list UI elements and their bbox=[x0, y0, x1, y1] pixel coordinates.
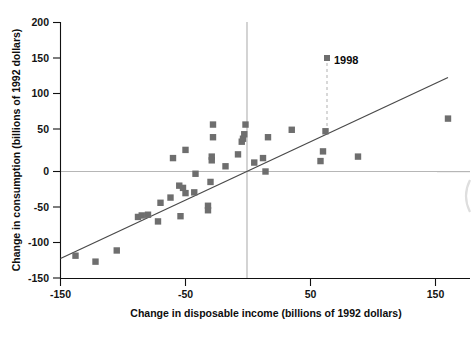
data-points-group bbox=[72, 115, 451, 264]
x-axis-ticks bbox=[61, 279, 436, 286]
data-point-marker bbox=[145, 212, 151, 218]
data-point-marker bbox=[317, 158, 323, 164]
data-point-marker bbox=[251, 159, 257, 165]
data-point-marker bbox=[182, 147, 188, 153]
x-tick-label-50: 50 bbox=[305, 288, 317, 300]
y-tick-label-50: 50 bbox=[37, 123, 49, 135]
year-1998-marker bbox=[324, 55, 330, 61]
y-tick-label-neg150: -150 bbox=[28, 272, 49, 284]
data-point-marker bbox=[222, 163, 228, 169]
data-point-marker bbox=[114, 247, 120, 253]
y-tick-label-0: 0 bbox=[43, 165, 49, 177]
y-tick-label-150: 150 bbox=[31, 52, 49, 64]
x-tick-label-neg150: -150 bbox=[50, 288, 71, 300]
data-point-marker bbox=[139, 212, 145, 218]
data-point-marker bbox=[72, 252, 78, 258]
y-tick-label-neg50: -50 bbox=[34, 201, 49, 213]
y-tick-label-neg100: -100 bbox=[28, 236, 49, 248]
regression-line bbox=[61, 78, 449, 259]
y-axis-title: Change in consumption (billions of 1992 … bbox=[10, 29, 22, 272]
scatter-plot-svg: 200 150 100 50 0 -50 -100 -150 -150 -50 … bbox=[0, 0, 473, 338]
data-point-marker bbox=[445, 115, 451, 121]
data-point-marker bbox=[241, 131, 247, 137]
year-1998-label: 1998 bbox=[334, 54, 358, 66]
data-point-marker bbox=[192, 171, 198, 177]
data-point-marker bbox=[320, 148, 326, 154]
data-point-marker bbox=[209, 153, 215, 159]
page-edge-artifact bbox=[466, 180, 470, 212]
data-point-marker bbox=[242, 121, 248, 127]
data-point-marker bbox=[177, 213, 183, 219]
data-point-marker bbox=[260, 155, 266, 161]
data-point-marker bbox=[289, 127, 295, 133]
data-point-marker bbox=[235, 151, 241, 157]
data-point-marker bbox=[265, 134, 271, 140]
data-point-marker bbox=[170, 155, 176, 161]
x-tick-label-neg50: -50 bbox=[178, 288, 193, 300]
data-point-marker bbox=[210, 121, 216, 127]
data-point-marker bbox=[167, 194, 173, 200]
data-point-marker bbox=[355, 153, 361, 159]
data-point-marker bbox=[322, 128, 328, 134]
x-tick-label-150: 150 bbox=[427, 288, 445, 300]
data-point-marker bbox=[157, 200, 163, 206]
x-axis-title: Change in disposable income (billions of… bbox=[130, 307, 401, 319]
data-point-marker bbox=[210, 134, 216, 140]
data-point-marker bbox=[191, 189, 197, 195]
y-axis-ticks bbox=[53, 23, 60, 279]
data-point-marker bbox=[155, 218, 161, 224]
data-point-marker bbox=[207, 179, 213, 185]
data-point-marker bbox=[182, 190, 188, 196]
scatter-chart-figure: 200 150 100 50 0 -50 -100 -150 -150 -50 … bbox=[0, 0, 473, 338]
data-point-marker bbox=[262, 168, 268, 174]
y-tick-label-200: 200 bbox=[31, 16, 49, 28]
data-point-marker bbox=[92, 258, 98, 264]
data-point-marker bbox=[205, 207, 211, 213]
y-tick-label-100: 100 bbox=[31, 87, 49, 99]
